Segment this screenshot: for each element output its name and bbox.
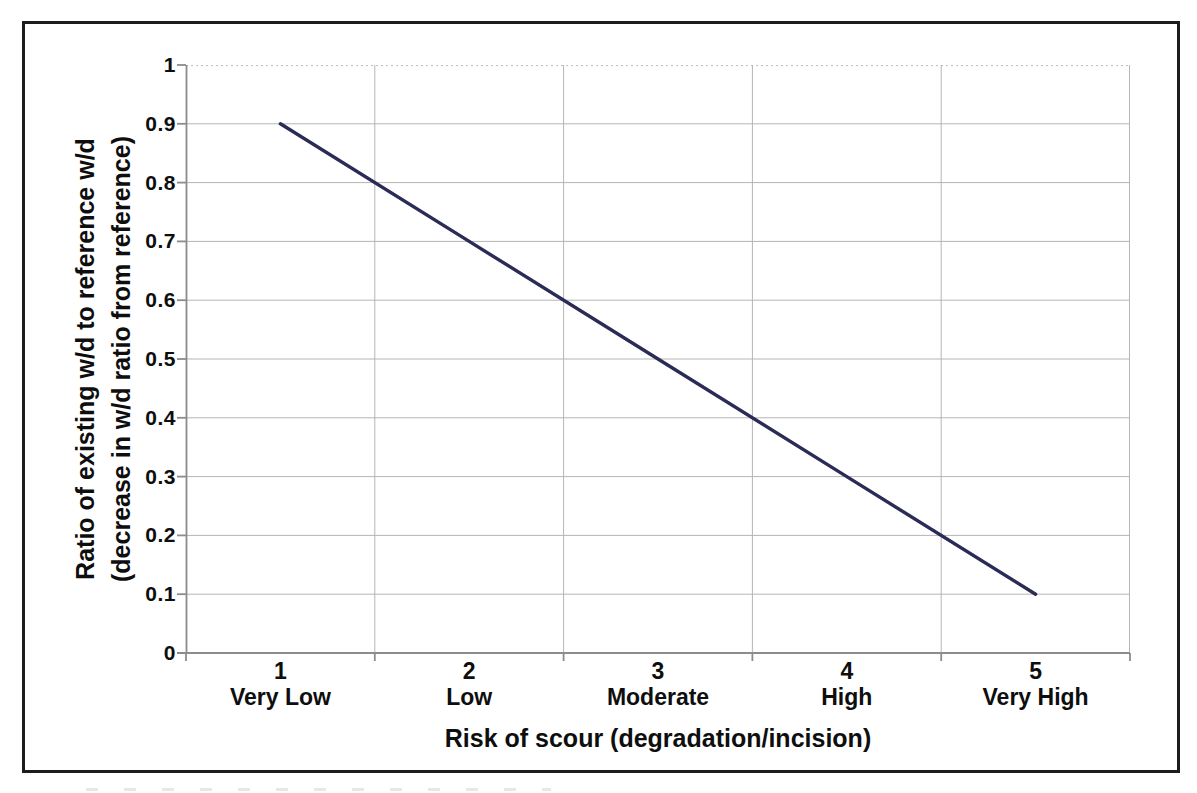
x-category-label: 1Very Low (195, 658, 365, 710)
y-tick-label: 0.7 (104, 228, 176, 254)
x-category-number: 3 (573, 658, 743, 684)
y-tick-label: 1 (104, 52, 176, 78)
x-category-descriptor: Very Low (195, 684, 365, 710)
x-category-descriptor: High (762, 684, 932, 710)
y-tick-label: 0.2 (104, 522, 176, 548)
y-tick-label: 0.3 (104, 464, 176, 490)
x-category-number: 1 (195, 658, 365, 684)
y-tick-label: 0.8 (104, 170, 176, 196)
y-tick-label: 0.5 (104, 346, 176, 372)
x-category-descriptor: Very High (951, 684, 1121, 710)
x-axis-title: Risk of scour (degradation/incision) (186, 724, 1130, 753)
x-category-number: 5 (951, 658, 1121, 684)
scanned-figure-page: Ratio of existing w/d to reference w/d (… (0, 0, 1197, 793)
x-category-label: 2Low (384, 658, 554, 710)
cropped-caption-remnant (86, 788, 551, 791)
x-category-descriptor: Low (384, 684, 554, 710)
y-tick-label: 0 (104, 640, 176, 666)
y-tick-label: 0.9 (104, 111, 176, 137)
y-axis-title-line1: Ratio of existing w/d to reference w/d (67, 136, 103, 582)
x-category-label: 5Very High (951, 658, 1121, 710)
y-tick-label: 0.4 (104, 405, 176, 431)
x-category-label: 3Moderate (573, 658, 743, 710)
y-tick-label: 0.1 (104, 581, 176, 607)
x-category-label: 4High (762, 658, 932, 710)
y-tick-label: 0.6 (104, 287, 176, 313)
x-category-descriptor: Moderate (573, 684, 743, 710)
x-category-number: 2 (384, 658, 554, 684)
x-category-number: 4 (762, 658, 932, 684)
plot-area (186, 65, 1130, 653)
